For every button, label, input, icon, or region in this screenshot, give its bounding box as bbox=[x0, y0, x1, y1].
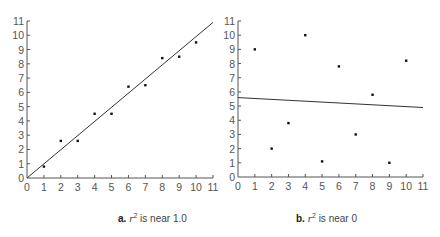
x-tick-label: 1 bbox=[41, 181, 47, 193]
data-point bbox=[321, 160, 323, 162]
chart-figure: 0123456789101101234567891011012345678910… bbox=[0, 0, 440, 237]
y-tick-label: 6 bbox=[229, 86, 235, 98]
regression-line bbox=[238, 98, 423, 108]
data-point bbox=[77, 140, 79, 142]
x-tick-label: 7 bbox=[353, 180, 359, 192]
y-tick-label: 10 bbox=[12, 29, 24, 41]
x-tick-label: 5 bbox=[319, 180, 325, 192]
x-tick-label: 9 bbox=[176, 181, 182, 193]
y-tick-label: 10 bbox=[223, 29, 235, 41]
x-tick-label: 10 bbox=[400, 180, 412, 192]
y-tick-label: 1 bbox=[18, 158, 24, 170]
scatter-plots: 0123456789101101234567891011012345678910… bbox=[0, 0, 440, 237]
y-tick-label: 4 bbox=[229, 114, 235, 126]
x-tick-label: 7 bbox=[142, 181, 148, 193]
data-point bbox=[287, 122, 289, 124]
data-point bbox=[43, 165, 45, 167]
data-point bbox=[110, 113, 112, 115]
y-tick-label: 5 bbox=[229, 100, 235, 112]
x-tick-label: 11 bbox=[208, 181, 219, 193]
y-tick-label: 5 bbox=[18, 101, 24, 113]
data-point bbox=[388, 162, 390, 164]
y-tick-label: 0 bbox=[18, 172, 24, 184]
y-tick-label: 4 bbox=[18, 115, 24, 127]
regression-line bbox=[27, 22, 213, 178]
data-point bbox=[254, 48, 256, 50]
x-tick-label: 6 bbox=[336, 180, 342, 192]
data-point bbox=[338, 65, 340, 67]
y-tick-label: 8 bbox=[229, 58, 235, 70]
x-tick-label: 0 bbox=[24, 181, 30, 193]
data-point bbox=[371, 94, 373, 96]
x-tick-label: 4 bbox=[302, 180, 308, 192]
x-tick-label: 2 bbox=[58, 181, 64, 193]
x-tick-label: 6 bbox=[126, 181, 132, 193]
data-point bbox=[127, 85, 129, 87]
data-point bbox=[405, 60, 407, 62]
data-point bbox=[93, 113, 95, 115]
x-tick-label: 5 bbox=[109, 181, 115, 193]
y-tick-label: 2 bbox=[18, 143, 24, 155]
x-tick-label: 3 bbox=[75, 181, 81, 193]
y-tick-label: 2 bbox=[229, 143, 235, 155]
y-tick-label: 11 bbox=[224, 15, 235, 27]
y-tick-label: 0 bbox=[229, 171, 235, 183]
y-tick-label: 7 bbox=[229, 72, 235, 84]
y-tick-label: 11 bbox=[13, 15, 24, 27]
data-point bbox=[355, 133, 357, 135]
data-point bbox=[270, 147, 272, 149]
x-tick-label: 3 bbox=[286, 180, 292, 192]
y-tick-label: 6 bbox=[18, 86, 24, 98]
x-tick-label: 10 bbox=[190, 181, 202, 193]
y-tick-label: 8 bbox=[18, 58, 24, 70]
data-point bbox=[60, 140, 62, 142]
data-point bbox=[144, 84, 146, 86]
y-tick-label: 7 bbox=[18, 72, 24, 84]
x-tick-label: 11 bbox=[418, 180, 429, 192]
caption-a: a. r2 is near 1.0 bbox=[118, 212, 187, 224]
y-tick-label: 9 bbox=[229, 43, 235, 55]
y-tick-label: 9 bbox=[18, 44, 24, 56]
data-point bbox=[178, 55, 180, 57]
data-point bbox=[161, 57, 163, 59]
caption-b: b. r2 is near 0 bbox=[296, 212, 357, 224]
y-tick-label: 3 bbox=[18, 129, 24, 141]
x-tick-label: 1 bbox=[252, 180, 258, 192]
x-tick-label: 0 bbox=[235, 180, 241, 192]
x-tick-label: 4 bbox=[92, 181, 98, 193]
x-tick-label: 8 bbox=[370, 180, 376, 192]
data-point bbox=[304, 34, 306, 36]
x-tick-label: 8 bbox=[159, 181, 165, 193]
data-point bbox=[195, 41, 197, 43]
x-tick-label: 9 bbox=[386, 180, 392, 192]
x-tick-label: 2 bbox=[269, 180, 275, 192]
y-tick-label: 3 bbox=[229, 128, 235, 140]
y-tick-label: 1 bbox=[229, 157, 235, 169]
